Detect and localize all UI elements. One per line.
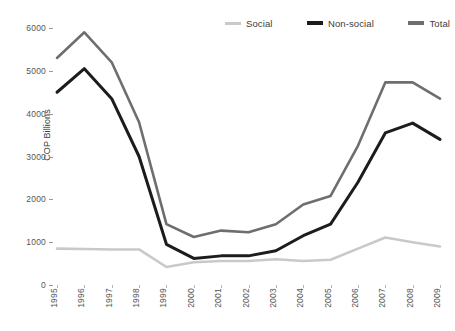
series-line-non-social (57, 69, 440, 259)
plot-area (0, 0, 455, 331)
series-line-total (57, 32, 440, 237)
line-chart: Social Non-social Total COP Billions 010… (0, 0, 455, 331)
series-line-social (57, 237, 440, 267)
